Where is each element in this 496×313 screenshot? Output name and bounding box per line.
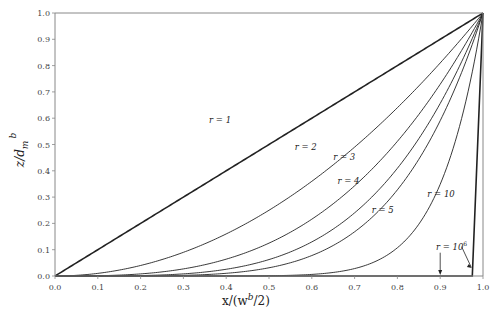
series-label: r = 1: [209, 115, 231, 125]
y-tick-label: 0.2: [37, 219, 50, 228]
x-tick-label: 0.3: [177, 283, 190, 292]
x-tick-label: 0.2: [134, 283, 147, 292]
y-tick-label: 0.3: [37, 193, 50, 202]
y-tick-label: 0.5: [37, 141, 50, 150]
y-axis-label: z/dmb: [8, 133, 30, 169]
chart: 0.00.10.20.30.40.50.60.70.80.91.00.00.10…: [0, 0, 496, 313]
series-label: r = 4: [337, 176, 359, 186]
series-label: r = 3: [333, 152, 355, 162]
y-tick-label: 0.1: [37, 246, 50, 255]
annotations: r = 1r = 2r = 3r = 4r = 5r = 10r = 106: [209, 115, 472, 275]
x-tick-label: 0.9: [434, 283, 447, 292]
y-tick-label: 1.0: [37, 9, 50, 18]
y-tick-label: 0.8: [37, 62, 50, 71]
x-tick-label: 0.6: [305, 283, 318, 292]
x-tick-label: 0.1: [91, 283, 104, 292]
y-tick-label: 0.7: [37, 88, 50, 97]
curves: [55, 13, 483, 276]
x-tick-label: 0.8: [391, 283, 404, 292]
y-tick-label: 0.0: [37, 272, 50, 281]
x-tick-label: 0.5: [263, 283, 276, 292]
y-tick-label: 0.4: [37, 167, 50, 176]
x-tick-label: 0.4: [220, 283, 233, 292]
y-tick-label: 0.9: [37, 35, 50, 44]
y-tick-label: 0.6: [37, 114, 50, 123]
x-tick-label: 1.0: [477, 283, 490, 292]
series-line: [55, 13, 483, 276]
x-axis-label: x/(wb/2): [222, 292, 270, 308]
series-label: r = 10: [427, 189, 455, 199]
series-label: r = 5: [372, 205, 394, 215]
x-tick-label: 0.7: [348, 283, 361, 292]
series-label: r = 2: [295, 142, 317, 152]
series-label: r = 106: [436, 240, 467, 252]
x-tick-label: 0.0: [49, 283, 62, 292]
